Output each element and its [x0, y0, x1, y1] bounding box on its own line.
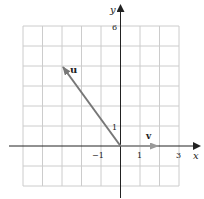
- x-tick-1: 1: [137, 151, 142, 160]
- y-tick-6: 6: [112, 23, 117, 32]
- y-axis-label: y: [109, 4, 116, 15]
- vector-v-label: v: [145, 131, 152, 141]
- vector-u-label: u: [70, 64, 77, 75]
- coordinate-plane: y x 6 1 −1 1 3 u v: [0, 0, 204, 199]
- x-axis-label: x: [193, 150, 199, 161]
- x-tick-neg1: −1: [92, 151, 104, 160]
- grid: [23, 26, 179, 186]
- x-tick-3: 3: [176, 151, 181, 160]
- y-tick-1: 1: [112, 123, 117, 132]
